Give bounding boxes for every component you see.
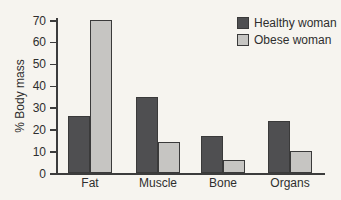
bar-muscle-obese: [158, 142, 180, 173]
legend-item-obese-woman: Obese woman: [237, 31, 337, 48]
bar-chart-figure: 010203040506070 FatMuscleBoneOrgans % Bo…: [0, 0, 341, 200]
x-axis: [56, 173, 325, 175]
bar-fat-healthy: [68, 116, 90, 173]
bar-organs-healthy: [268, 121, 290, 173]
y-tick-mark: [50, 20, 56, 22]
y-tick-mark: [50, 42, 56, 44]
legend: Healthy womanObese woman: [237, 14, 337, 48]
bar-muscle-healthy: [136, 97, 158, 174]
bar-bone-obese: [223, 160, 245, 173]
bar-fat-obese: [90, 20, 112, 173]
legend-label: Obese woman: [254, 34, 331, 46]
x-label-bone: Bone: [193, 177, 253, 190]
x-label-muscle: Muscle: [128, 177, 188, 190]
x-label-fat: Fat: [60, 177, 120, 190]
y-axis: [56, 18, 58, 174]
y-tick-mark: [50, 173, 56, 175]
bar-organs-obese: [290, 151, 312, 173]
y-tick-mark: [50, 64, 56, 66]
y-tick-mark: [50, 151, 56, 153]
y-axis-label-gutter: % Body mass: [8, 18, 32, 173]
y-axis-label: % Body mass: [13, 59, 27, 132]
y-tick-mark: [50, 107, 56, 109]
y-tick-mark: [50, 129, 56, 131]
legend-label: Healthy woman: [254, 17, 337, 29]
bar-bone-healthy: [201, 136, 223, 173]
legend-item-healthy-woman: Healthy woman: [237, 14, 337, 31]
legend-swatch-icon: [237, 17, 249, 29]
legend-swatch-icon: [237, 34, 249, 46]
x-label-organs: Organs: [260, 177, 320, 190]
y-tick-mark: [50, 86, 56, 88]
